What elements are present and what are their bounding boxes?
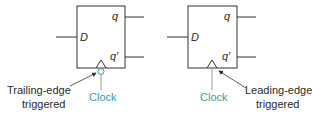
clock-triangle-icon: [96, 60, 106, 68]
annotation-arrow: [219, 71, 246, 88]
qbar-pin-label: q′: [222, 50, 231, 62]
annotation-line-2: triggered: [22, 98, 65, 110]
clock-triangle-icon: [207, 60, 217, 68]
clock-label: Clock: [89, 91, 117, 103]
annotation-arrow: [70, 73, 96, 86]
q-pin-label: q: [112, 10, 119, 22]
qbar-pin-label: q′: [110, 50, 119, 62]
inversion-bubble-icon: [98, 69, 104, 75]
clock-label: Clock: [200, 91, 228, 103]
flipflop-diagrams: D q q′ Clock Trailing-edge triggered D q…: [0, 0, 312, 125]
annotation-line-1: Leading-edge: [245, 84, 312, 96]
leading-edge-flipflop: D q q′ Clock Leading-edge triggered: [167, 6, 312, 110]
q-pin-label: q: [224, 10, 231, 22]
trailing-edge-flipflop: D q q′ Clock Trailing-edge triggered: [7, 6, 144, 110]
annotation-line-2: triggered: [256, 98, 299, 110]
d-pin-label: D: [80, 31, 88, 43]
annotation-line-1: Trailing-edge: [7, 84, 71, 96]
d-pin-label: D: [191, 31, 199, 43]
